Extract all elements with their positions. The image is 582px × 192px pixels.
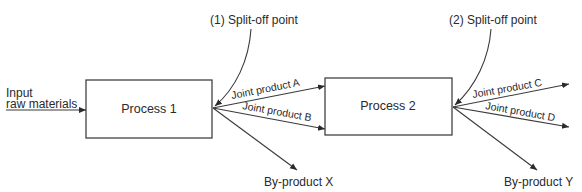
joint-product-d-label: Joint product D <box>485 99 557 123</box>
process-2-label: Process 2 <box>360 99 416 113</box>
split-off-point-1-label: (1) Split-off point <box>210 13 298 27</box>
input-label-line2: raw materials <box>6 97 77 111</box>
split-off-point-2-label: (2) Split-off point <box>449 13 537 27</box>
process-1-label: Process 1 <box>121 102 177 116</box>
byproduct-y-label: By-product Y <box>504 175 573 189</box>
byproduct-x-label: By-product X <box>264 175 333 189</box>
joint-product-flow-diagram: Input raw materials Process 1 (1) Split-… <box>0 0 582 192</box>
